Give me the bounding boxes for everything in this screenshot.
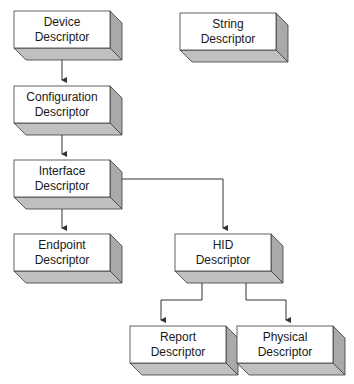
- node-title-line1: Interface: [39, 164, 86, 179]
- node-interface-label: Interface Descriptor: [14, 160, 110, 197]
- node-report-label: Report Descriptor: [130, 326, 226, 363]
- node-title-line1: Physical: [263, 330, 308, 345]
- edge-interface-hid: [122, 179, 223, 228]
- node-title-line2: Descriptor: [35, 105, 90, 120]
- node-physical-label: Physical Descriptor: [237, 326, 333, 363]
- edge-hid-physical: [246, 283, 286, 320]
- node-title-line2: Descriptor: [35, 179, 90, 194]
- node-endpoint-label: Endpoint Descriptor: [14, 234, 110, 271]
- node-title-line2: Descriptor: [151, 345, 206, 360]
- node-title-line1: Device: [44, 15, 81, 30]
- node-device-label: Device Descriptor: [14, 11, 110, 48]
- edge-hid-report: [161, 283, 202, 320]
- node-title-line1: String: [212, 17, 243, 32]
- node-configuration-label: Configuration Descriptor: [14, 86, 110, 123]
- node-string-label: String Descriptor: [180, 13, 276, 50]
- node-title-line1: Configuration: [26, 90, 97, 105]
- node-title-line2: Descriptor: [196, 253, 251, 268]
- node-title-line1: Report: [160, 330, 196, 345]
- node-title-line2: Descriptor: [201, 32, 256, 47]
- node-title-line2: Descriptor: [35, 30, 90, 45]
- node-title-line1: HID: [213, 238, 234, 253]
- node-title-line2: Descriptor: [35, 253, 90, 268]
- node-hid-label: HID Descriptor: [175, 234, 271, 271]
- node-title-line1: Endpoint: [38, 238, 85, 253]
- node-title-line2: Descriptor: [258, 345, 313, 360]
